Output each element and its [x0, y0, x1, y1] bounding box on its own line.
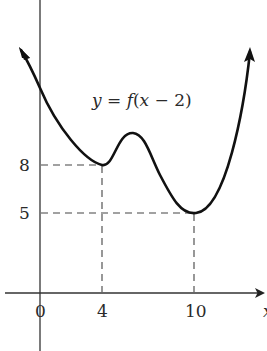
- label-eq: =: [102, 90, 127, 110]
- label-rest: − 2): [149, 90, 192, 110]
- y-tick-5: 5: [19, 203, 30, 223]
- label-x: x: [140, 90, 150, 110]
- function-graph: y = f(x − 2) 8 5 0 4 10 x: [0, 0, 267, 351]
- label-y: y: [91, 90, 102, 110]
- x-tick-0: 0: [35, 301, 46, 321]
- dashed-guides: [41, 165, 194, 292]
- x-tick-4: 4: [97, 301, 108, 321]
- label-open: (: [133, 90, 140, 110]
- function-curve: [21, 50, 250, 213]
- function-label: y = f(x − 2): [91, 90, 192, 110]
- y-tick-8: 8: [19, 155, 30, 175]
- x-axis-label: x: [263, 301, 267, 321]
- x-tick-10: 10: [185, 301, 207, 321]
- left-arrow-icon-tip: [19, 47, 30, 58]
